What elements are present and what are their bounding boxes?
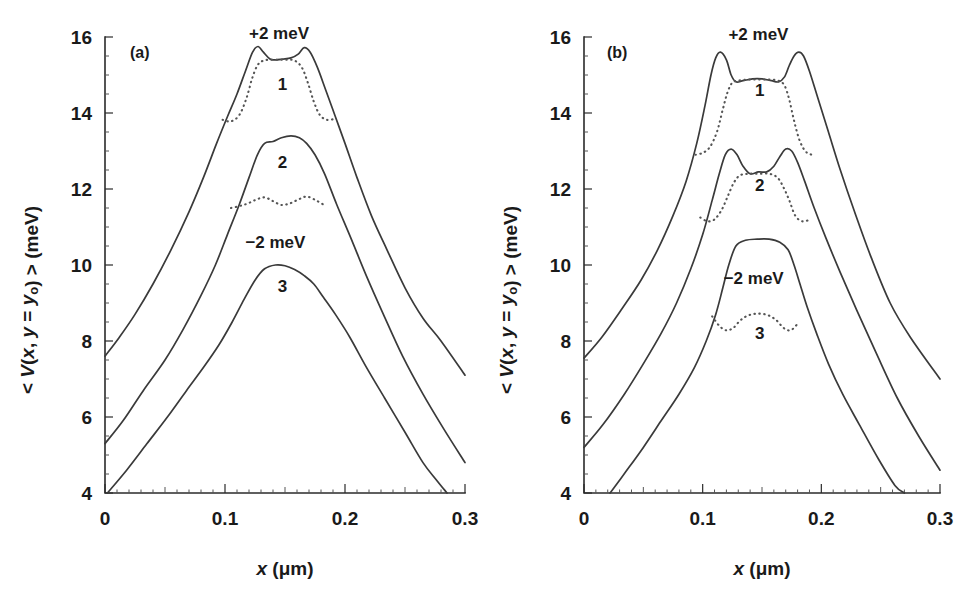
y-tick-label: 12 [71,179,92,200]
x-tick-label: 0.1 [212,508,239,529]
curve-3 [107,265,447,493]
y-tick-labels: 46810121416 [71,27,93,504]
x-tick-label: 0.1 [689,508,716,529]
annotation-2-mev: +2 meV [728,25,789,44]
curve-2-dotted [231,197,326,208]
y-tick-label: 10 [550,255,571,276]
y-tick-label: 8 [81,331,92,352]
x-tick-marks [105,484,465,493]
figure-container: 46810121416 00.10.20.3 +2 meV12−2 meV3 (… [0,0,977,599]
x-axis-title: x (μm) [732,558,790,579]
annotation-2: 2 [278,153,287,172]
annotation-3: 3 [755,324,764,343]
y-tick-label: 6 [560,407,571,428]
annotation-1: 1 [755,81,764,100]
svg-text:< V(x, y = yo) > (meV): < V(x, y = yo) > (meV) [17,206,42,394]
y-tick-label: 16 [71,27,92,48]
chart-panel-a: 46810121416 00.10.20.3 +2 meV12−2 meV3 (… [0,0,500,599]
panel-a-curves [105,47,465,494]
y-tick-marks [105,37,113,493]
y-tick-label: 6 [81,407,92,428]
y-tick-label: 10 [71,255,92,276]
y-tick-label: 14 [71,103,93,124]
curve-1 [105,47,465,376]
panel-b-svg: 46810121416 00.10.20.3 +2 meV12−2 meV3 (… [479,0,977,599]
x-axis-title: x (μm) [255,558,313,579]
y-tick-labels: 46810121416 [550,27,572,504]
annotation-3: 3 [278,277,287,296]
svg-text:< V(x, y = yo) > (meV): < V(x, y = yo) > (meV) [496,206,521,394]
x-tick-label: 0.3 [452,508,478,529]
y-tick-label: 8 [560,331,571,352]
panel-label-b: (b) [607,44,627,61]
x-tick-label: 0.2 [332,508,358,529]
y-tick-label: 4 [560,483,571,504]
y-tick-label: 4 [81,483,92,504]
x-tick-labels: 00.10.20.3 [100,508,479,529]
y-tick-label: 16 [550,27,571,48]
axis-lines [584,37,940,493]
annotation-2-mev: −2 meV [245,233,306,252]
x-tick-label: 0 [100,508,111,529]
panel-a-svg: 46810121416 00.10.20.3 +2 meV12−2 meV3 (… [0,0,500,599]
svg-text:x (μm): x (μm) [255,558,313,579]
x-tick-label: 0 [579,508,590,529]
x-tick-labels: 00.10.20.3 [579,508,954,529]
y-axis-title: < V(x, y = yo) > (meV) [496,206,521,394]
chart-panel-b: 46810121416 00.10.20.3 +2 meV12−2 meV3 (… [479,0,977,599]
panel-label-a: (a) [130,44,150,61]
panel-b-annotations: +2 meV12−2 meV3 [724,25,789,343]
curve-2 [584,149,940,471]
y-tick-label: 12 [550,179,571,200]
x-tick-label: 0.3 [927,508,953,529]
x-tick-label: 0.2 [808,508,834,529]
svg-text:x (μm): x (μm) [732,558,790,579]
annotation-2-mev: −2 meV [724,269,785,288]
annotation-2-mev: +2 meV [249,24,310,43]
annotation-2: 2 [755,176,764,195]
y-tick-marks [584,37,592,493]
y-axis-title: < V(x, y = yo) > (meV) [17,206,42,394]
annotation-1: 1 [278,75,287,94]
y-tick-label: 14 [550,103,572,124]
x-tick-marks [584,484,940,493]
